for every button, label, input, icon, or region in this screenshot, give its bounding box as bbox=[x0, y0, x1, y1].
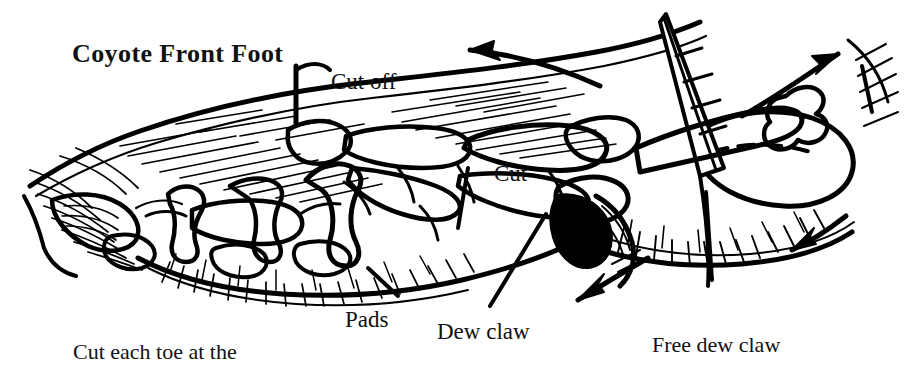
instructions-left-block: Cut each toe at the joint shown above. S… bbox=[73, 285, 240, 389]
label-dew-claw: Dew claw bbox=[437, 318, 530, 346]
instructions-left-line-1: Cut each toe at the bbox=[73, 339, 240, 366]
label-cut: Cut bbox=[494, 160, 527, 188]
label-pads: Pads bbox=[345, 306, 388, 334]
label-cut-off: Cut off bbox=[331, 68, 396, 96]
instructions-right-line-1: Free dew claw bbox=[652, 332, 784, 359]
illustration-page: Coyote Front Foot Cut off Cut Pads Dew c… bbox=[0, 0, 910, 389]
instructions-right-block: Free dew claw & continue to invert skin … bbox=[652, 278, 784, 389]
page-title: Coyote Front Foot bbox=[72, 38, 283, 70]
